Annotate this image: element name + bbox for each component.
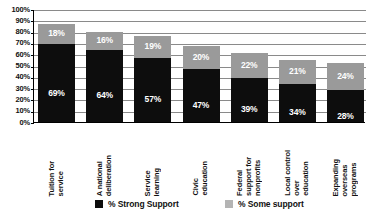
bar-segment-strong-support[interactable]: 69% [38, 44, 75, 122]
bar-value-label: 21% [289, 67, 305, 76]
x-axis-category-label: Local control over education [278, 126, 315, 196]
plot-area: 18%69%16%64%19%57%20%47%22%39%21%34%24%2… [33, 10, 365, 123]
y-axis-tick-label: 60% [0, 51, 30, 59]
y-axis-tick-label: 40% [0, 73, 30, 81]
bar-segment-some-support[interactable]: 24% [327, 63, 364, 90]
y-axis-tick [31, 44, 34, 45]
category-label-text: A national deliberation [95, 155, 113, 196]
bar-segment-strong-support[interactable]: 39% [231, 78, 268, 122]
y-axis-tick-label: 30% [0, 85, 30, 93]
bar-group[interactable]: 18%69% [38, 24, 75, 122]
bar-segment-strong-support[interactable]: 64% [86, 50, 123, 122]
y-axis-tick [31, 123, 34, 124]
bar-segment-strong-support[interactable]: 57% [134, 58, 171, 122]
bar-group[interactable]: 24%28% [327, 63, 364, 122]
category-label-text: Service learning [143, 168, 161, 196]
legend-swatch-some [225, 200, 233, 208]
x-axis-category-label: Expanding overseas programs [326, 126, 363, 196]
y-axis-tick [31, 112, 34, 113]
legend-label: % Some support [238, 199, 304, 209]
chart-legend: % Strong Support% Some support [0, 199, 379, 213]
x-axis-category-label: Service learning [133, 126, 170, 196]
bar-segment-some-support[interactable]: 22% [231, 53, 268, 78]
x-axis-category-label: Federal support for nonprofits [230, 126, 267, 196]
x-axis-category-label: Tuition for service [37, 126, 74, 196]
y-axis-tick-label: 100% [0, 6, 30, 14]
category-label-text: Expanding overseas programs [331, 159, 358, 196]
y-axis-tick-label: 20% [0, 96, 30, 104]
bar-segment-strong-support[interactable]: 34% [279, 84, 316, 122]
y-axis-tick [31, 89, 34, 90]
gridline [34, 21, 366, 22]
bar-value-label: 19% [145, 42, 161, 51]
bar-segment-some-support[interactable]: 16% [86, 32, 123, 50]
category-label-text: Federal support for nonprofits [235, 157, 262, 196]
legend-item[interactable]: % Strong Support [95, 199, 179, 209]
bar-value-label: 47% [193, 101, 209, 110]
bar-value-label: 64% [96, 91, 112, 100]
bar-value-label: 20% [193, 53, 209, 62]
bar-segment-some-support[interactable]: 18% [38, 24, 75, 44]
bar-segment-strong-support[interactable]: 47% [183, 69, 220, 122]
y-axis-tick [31, 10, 34, 11]
bar-group[interactable]: 20%47% [183, 46, 220, 122]
category-label-text: Civic education [191, 161, 209, 196]
y-axis-tick-label: 90% [0, 17, 30, 25]
bar-value-label: 24% [337, 72, 353, 81]
y-axis-tick [31, 100, 34, 101]
bar-group[interactable]: 16%64% [86, 32, 123, 122]
gridline [34, 44, 366, 45]
gridline [34, 10, 366, 11]
legend-item[interactable]: % Some support [225, 199, 304, 209]
y-axis-tick [31, 33, 34, 34]
y-axis-tick [31, 67, 34, 68]
category-label-text: Tuition for service [47, 161, 65, 196]
y-axis-tick-label: 50% [0, 62, 30, 70]
bar-value-label: 69% [48, 89, 64, 98]
stacked-bar-chart: 0%10%20%30%40%50%60%70%80%90%100% 18%69%… [0, 0, 379, 221]
y-axis-tick-label: 80% [0, 28, 30, 36]
x-axis-category-label: A national deliberation [85, 126, 122, 196]
bar-segment-some-support[interactable]: 20% [183, 46, 220, 69]
bar-value-label: 16% [96, 36, 112, 45]
bar-segment-strong-support[interactable]: 28% [327, 90, 364, 122]
bar-value-label: 39% [241, 105, 257, 114]
y-axis-tick [31, 78, 34, 79]
bar-segment-some-support[interactable]: 19% [134, 36, 171, 57]
category-label-text: Local control over education [283, 150, 310, 196]
bar-value-label: 34% [289, 108, 305, 117]
y-axis-tick-label: 0% [0, 119, 30, 127]
y-axis-tick [31, 21, 34, 22]
bar-group[interactable]: 22%39% [231, 53, 268, 122]
bar-value-label: 28% [337, 112, 353, 121]
legend-swatch-strong [95, 200, 103, 208]
y-axis-tick [31, 55, 34, 56]
bar-segment-some-support[interactable]: 21% [279, 60, 316, 84]
bar-value-label: 22% [241, 61, 257, 70]
gridline [34, 33, 366, 34]
bar-group[interactable]: 19%57% [134, 36, 171, 122]
bar-value-label: 18% [48, 29, 64, 38]
legend-label: % Strong Support [108, 199, 179, 209]
bar-value-label: 57% [145, 95, 161, 104]
bar-group[interactable]: 21%34% [279, 60, 316, 122]
y-axis-tick-label: 70% [0, 39, 30, 47]
y-axis-tick-label: 10% [0, 107, 30, 115]
x-axis-category-label: Civic education [182, 126, 219, 196]
